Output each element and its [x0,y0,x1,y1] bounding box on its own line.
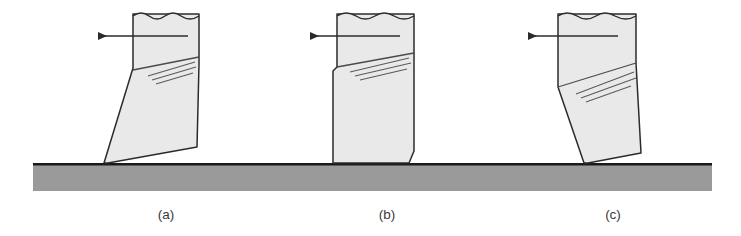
cutting-tool-rake-figure: (a) (b) (c) [0,0,741,236]
caption-a: (a) [158,207,175,222]
figure-canvas: (a) (b) (c) [0,0,741,236]
workpiece-group [33,163,712,191]
workpiece-bar [33,163,712,191]
caption-c: (c) [605,207,621,222]
caption-b: (b) [379,207,396,222]
